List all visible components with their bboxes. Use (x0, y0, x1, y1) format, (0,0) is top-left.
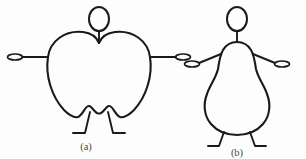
right-hand-icon-b (275, 61, 290, 67)
head-icon-b (227, 7, 247, 31)
figure-panel: (a) (b) (0, 0, 306, 159)
left-hand-icon-a (8, 54, 23, 60)
panel-b-figure: (b) (185, 7, 290, 159)
right-arm-line-b (253, 54, 275, 63)
left-leg-line-b (208, 132, 224, 146)
head-icon-a (89, 7, 109, 31)
right-hand-icon-a (176, 54, 191, 60)
panel-a-figure: (a) (8, 7, 191, 153)
apple-torso-outline (47, 32, 150, 117)
left-hand-icon-b (185, 61, 200, 67)
body-shape-diagram: (a) (b) (0, 0, 306, 159)
panel-a-caption: (a) (80, 141, 92, 153)
right-leg-line-b (250, 132, 266, 146)
panel-b-caption: (b) (231, 147, 244, 159)
left-arm-line-b (199, 54, 221, 63)
